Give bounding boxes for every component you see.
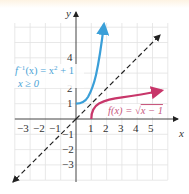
svg-text:f(x) = √x − 1: f(x) = √x − 1 (108, 105, 163, 117)
y-axis-label: y (65, 7, 71, 19)
x-axis-label: x (178, 127, 184, 139)
inverse-function-label: f−1(x) = x2 + 1 x ≥ 0 (14, 64, 84, 89)
svg-text:x ≥ 0: x ≥ 0 (17, 78, 40, 89)
grid (15, 23, 168, 180)
y-tick: 1 (67, 97, 73, 109)
inverse-function-curve (76, 24, 104, 104)
x-tick: 4 (133, 122, 139, 134)
x-tick: 5 (148, 122, 154, 134)
x-tick: −3 (17, 122, 29, 134)
x-tick: −1 (49, 122, 61, 134)
y-tick: −3 (62, 158, 74, 170)
x-tick: −2 (33, 122, 45, 134)
function-label: f(x) = √x − 1 (106, 104, 166, 117)
graph: y x −3 −2 −1 1 2 3 4 5 4 2 1 −1 −2 −3 f−… (0, 0, 189, 194)
x-tick: 3 (118, 122, 124, 134)
y-tick: −1 (62, 128, 74, 140)
x-tick: 2 (103, 122, 109, 134)
x-tick: 1 (88, 122, 94, 134)
y-tick: −2 (62, 143, 74, 155)
y-tick: 4 (67, 51, 73, 63)
